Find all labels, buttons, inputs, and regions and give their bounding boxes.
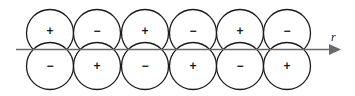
lobe-diagram: + − − + + − − + + − − + r [0,0,355,96]
upper-sign: + [141,24,148,38]
lower-sign: − [141,59,148,73]
arrow-right-icon [329,44,341,55]
upper-sign: + [236,24,243,38]
upper-sign: − [283,24,290,38]
lower-sign: + [283,59,290,73]
lower-sign: + [189,59,196,73]
lower-sign: + [93,59,100,73]
upper-sign: − [189,24,196,38]
upper-sign: + [46,24,53,38]
lower-sign: − [236,59,243,73]
lower-sign: − [46,59,53,73]
upper-sign: − [93,24,100,38]
axis-label-r: r [331,30,336,44]
